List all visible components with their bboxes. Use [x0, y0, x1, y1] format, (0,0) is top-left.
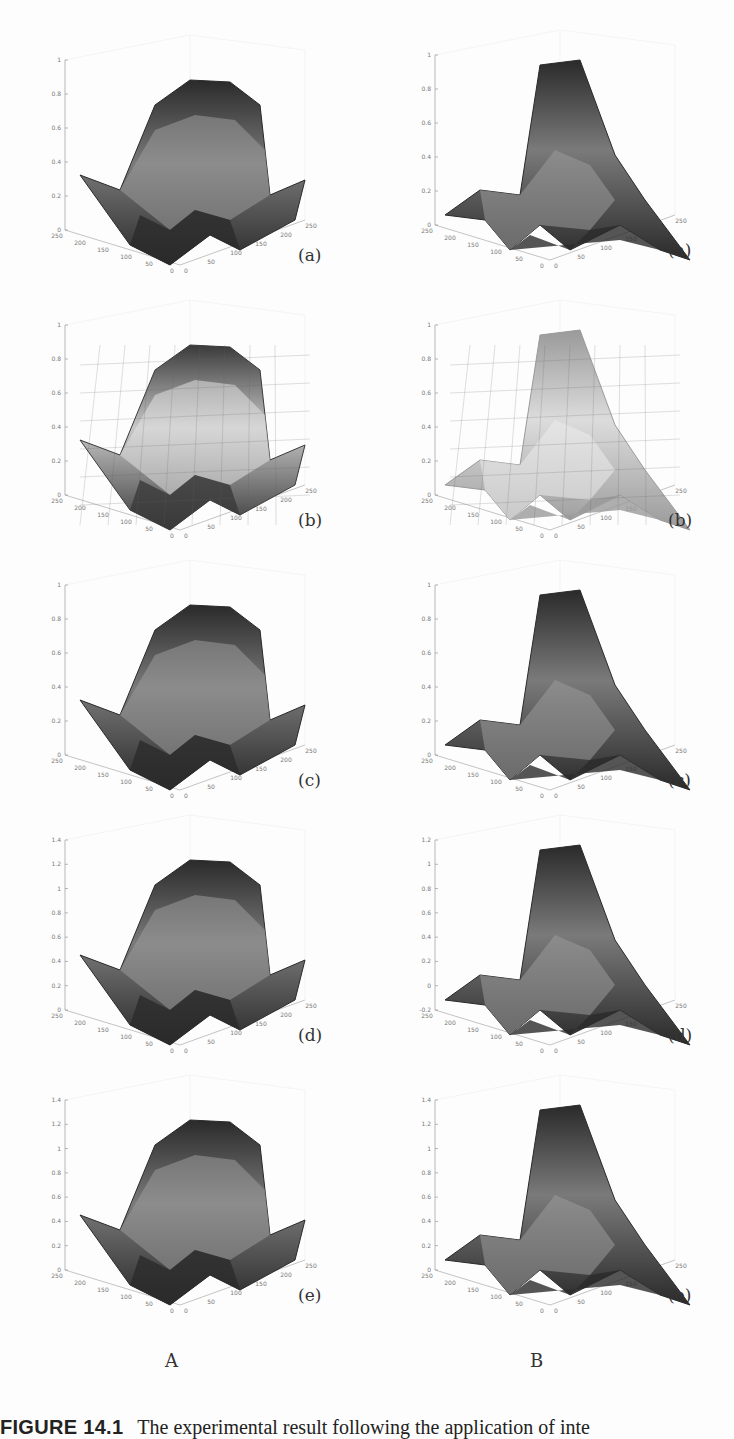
- svg-text:0.2: 0.2: [421, 957, 431, 964]
- svg-text:250: 250: [675, 487, 687, 494]
- svg-text:0: 0: [170, 1307, 174, 1314]
- svg-text:0.8: 0.8: [421, 85, 431, 92]
- svg-text:100: 100: [600, 774, 612, 781]
- svg-text:200: 200: [444, 764, 456, 771]
- svg-text:1.2: 1.2: [51, 860, 61, 867]
- surface-plot-a-d: 00.20.40.60.811.21.425020015010050005010…: [20, 800, 340, 1050]
- svg-text:0: 0: [170, 792, 174, 799]
- svg-text:100: 100: [490, 1033, 502, 1040]
- svg-text:0.4: 0.4: [51, 423, 61, 430]
- svg-text:200: 200: [444, 1279, 456, 1286]
- svg-text:200: 200: [280, 231, 292, 238]
- svg-text:0.4: 0.4: [51, 158, 61, 165]
- svg-text:200: 200: [74, 1019, 86, 1026]
- svg-text:1.4: 1.4: [421, 1096, 431, 1103]
- svg-text:1: 1: [427, 51, 431, 58]
- svg-text:0.6: 0.6: [421, 649, 431, 656]
- svg-text:50: 50: [207, 523, 215, 530]
- svg-text:250: 250: [51, 1012, 63, 1019]
- svg-text:0: 0: [540, 532, 544, 539]
- surface-plot-b-b: 00.20.40.60.8125020015010050005010015020…: [390, 285, 710, 535]
- svg-text:50: 50: [577, 1038, 585, 1045]
- svg-text:1.4: 1.4: [51, 1096, 61, 1103]
- svg-text:50: 50: [515, 255, 523, 262]
- svg-text:0.8: 0.8: [51, 909, 61, 916]
- svg-text:50: 50: [207, 1038, 215, 1045]
- svg-text:1.2: 1.2: [421, 1120, 431, 1127]
- svg-text:1.2: 1.2: [421, 836, 431, 843]
- svg-text:50: 50: [515, 525, 523, 532]
- svg-text:0.6: 0.6: [51, 933, 61, 940]
- svg-text:250: 250: [305, 747, 317, 754]
- svg-text:1: 1: [427, 1145, 431, 1152]
- svg-text:0.6: 0.6: [51, 389, 61, 396]
- surface-plot-b-a: 00.20.40.60.8125020015010050005010015020…: [390, 15, 710, 265]
- svg-text:0.2: 0.2: [421, 457, 431, 464]
- svg-text:250: 250: [421, 227, 433, 234]
- svg-text:100: 100: [600, 1289, 612, 1296]
- svg-text:0.2: 0.2: [51, 457, 61, 464]
- svg-text:100: 100: [600, 244, 612, 251]
- figure-caption: FIGURE 14.1The experimental result follo…: [0, 1416, 734, 1439]
- svg-text:0.6: 0.6: [421, 389, 431, 396]
- svg-text:0.4: 0.4: [51, 683, 61, 690]
- svg-text:0.4: 0.4: [421, 933, 431, 940]
- svg-text:250: 250: [305, 1262, 317, 1269]
- svg-text:0.2: 0.2: [51, 1242, 61, 1249]
- svg-text:150: 150: [97, 1286, 109, 1293]
- svg-text:0.4: 0.4: [421, 683, 431, 690]
- svg-text:0: 0: [540, 792, 544, 799]
- column-label-a: A: [165, 1350, 178, 1371]
- svg-text:250: 250: [421, 1272, 433, 1279]
- svg-text:100: 100: [490, 778, 502, 785]
- svg-text:0.2: 0.2: [421, 187, 431, 194]
- panel-label: (d): [668, 1025, 692, 1045]
- panel-label: (d): [298, 1025, 322, 1045]
- svg-text:50: 50: [577, 783, 585, 790]
- panel-label: (c): [668, 770, 691, 790]
- surface-plot-b-e: 00.20.40.60.811.21.425020015010050005010…: [390, 1060, 710, 1310]
- svg-text:0: 0: [554, 262, 558, 269]
- svg-text:200: 200: [74, 764, 86, 771]
- svg-text:0: 0: [170, 532, 174, 539]
- svg-text:250: 250: [675, 1262, 687, 1269]
- svg-text:0: 0: [170, 267, 174, 274]
- surface-plot-b-c: 00.20.40.60.8125020015010050005010015020…: [390, 545, 710, 795]
- svg-text:0: 0: [540, 1047, 544, 1054]
- svg-text:0: 0: [170, 1047, 174, 1054]
- svg-text:250: 250: [675, 1002, 687, 1009]
- surface-plot-b-d: -0.200.20.40.60.811.22502001501005000501…: [390, 800, 710, 1050]
- svg-text:150: 150: [467, 771, 479, 778]
- svg-text:250: 250: [51, 497, 63, 504]
- svg-text:200: 200: [444, 1019, 456, 1026]
- svg-text:250: 250: [675, 747, 687, 754]
- svg-text:0.4: 0.4: [51, 957, 61, 964]
- svg-text:0.2: 0.2: [51, 717, 61, 724]
- panel-label: (b): [668, 510, 692, 530]
- svg-text:150: 150: [467, 1026, 479, 1033]
- svg-text:250: 250: [675, 217, 687, 224]
- svg-text:0.6: 0.6: [51, 124, 61, 131]
- svg-text:50: 50: [145, 525, 153, 532]
- svg-text:150: 150: [467, 241, 479, 248]
- svg-text:100: 100: [120, 1033, 132, 1040]
- svg-text:1: 1: [57, 885, 61, 892]
- svg-text:1: 1: [57, 321, 61, 328]
- svg-text:50: 50: [145, 1040, 153, 1047]
- svg-text:0.8: 0.8: [51, 90, 61, 97]
- svg-text:0.4: 0.4: [51, 1217, 61, 1224]
- svg-text:200: 200: [74, 239, 86, 246]
- svg-text:100: 100: [120, 1293, 132, 1300]
- svg-text:0: 0: [540, 1307, 544, 1314]
- svg-text:250: 250: [421, 757, 433, 764]
- svg-text:0: 0: [554, 1307, 558, 1314]
- svg-text:100: 100: [600, 1029, 612, 1036]
- svg-text:50: 50: [577, 1298, 585, 1305]
- svg-text:50: 50: [515, 1040, 523, 1047]
- svg-text:250: 250: [305, 1002, 317, 1009]
- svg-text:100: 100: [120, 253, 132, 260]
- svg-text:50: 50: [145, 1300, 153, 1307]
- svg-text:0.8: 0.8: [51, 355, 61, 362]
- panel-label: (c): [298, 770, 321, 790]
- svg-text:1.4: 1.4: [51, 836, 61, 843]
